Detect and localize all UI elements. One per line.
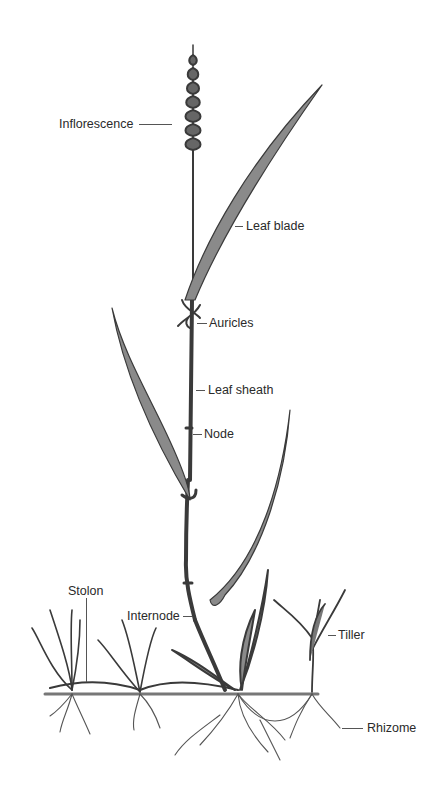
label-internode: Internode	[127, 609, 180, 623]
middle-small-plant	[98, 620, 156, 692]
tiller-leader	[328, 635, 336, 636]
leaf-blade-leader	[235, 226, 243, 227]
inflorescence-leader	[139, 124, 172, 125]
rhizome-leader	[342, 728, 363, 729]
label-leaf-blade: Leaf blade	[246, 219, 304, 233]
upper-leaf-blade	[185, 85, 322, 300]
node-leader	[193, 434, 202, 435]
label-stolon: Stolon	[68, 584, 103, 598]
stolon-runner	[50, 682, 238, 690]
roots	[50, 694, 340, 760]
label-rhizome: Rhizome	[367, 721, 416, 735]
leaf-sheath-leader	[196, 390, 205, 391]
stolon-leader	[86, 598, 87, 682]
left-small-plant	[32, 610, 80, 690]
label-leaf-sheath: Leaf sheath	[208, 383, 273, 397]
internode-leader	[183, 616, 192, 617]
label-inflorescence: Inflorescence	[59, 117, 133, 131]
label-tiller: Tiller	[338, 628, 365, 642]
auricles-leader	[197, 323, 207, 324]
inflorescence-spike	[186, 45, 201, 155]
tiller-plant	[274, 590, 345, 692]
label-node: Node	[204, 427, 234, 441]
label-auricles: Auricles	[209, 316, 253, 330]
left-long-leaf	[112, 308, 190, 500]
